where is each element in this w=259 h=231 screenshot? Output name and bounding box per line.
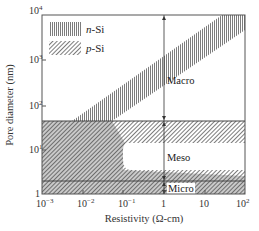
legend-label-p-si: p-Si <box>85 42 104 54</box>
arrowhead-macro-bottom <box>162 116 166 120</box>
legend-swatch-n-si <box>49 22 81 36</box>
y-tick-10e1: 101 <box>29 143 43 155</box>
y-axis-title: Pore diameter (nm) <box>4 64 16 146</box>
x-tick-10e-2: 10−2 <box>77 197 95 209</box>
arrowhead-macro-top <box>162 16 166 20</box>
pore-diameter-chart: n-Si p-Si Macro Meso Micro 104 103 102 1… <box>0 0 259 231</box>
label-micro: Micro <box>168 183 194 194</box>
y-tick-10e3: 103 <box>29 53 43 65</box>
x-tick-10e2: 102 <box>236 197 250 209</box>
y-tick-10e2: 102 <box>29 99 43 111</box>
x-axis-title: Resistivity (Ω-cm) <box>105 213 184 225</box>
y-tick-10e4: 104 <box>29 4 43 16</box>
x-tick-10e-1: 10−1 <box>118 197 136 209</box>
x-tick-10: 10 <box>199 198 209 209</box>
legend-swatch-p-si <box>49 41 81 55</box>
label-meso: Meso <box>167 152 190 163</box>
legend: n-Si p-Si <box>49 22 104 55</box>
x-tick-10e-3: 10−3 <box>36 197 54 209</box>
x-tick-1: 1 <box>161 198 166 209</box>
legend-label-n-si: n-Si <box>86 23 104 35</box>
label-macro: Macro <box>167 75 194 86</box>
